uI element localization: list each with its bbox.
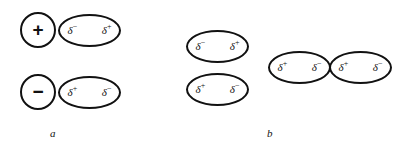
partial-charge-left: δ−	[196, 41, 206, 52]
dipole-pair-lower: δ+δ−	[186, 73, 249, 106]
dipole-inline-right: δ+δ−	[329, 51, 392, 84]
ion-dipole-diagram: +δ−δ+−δ+δ−aδ−δ+δ+δ−δ+δ−δ+δ−b	[0, 0, 398, 148]
partial-charge-right: δ−	[230, 84, 240, 95]
panel-label-b: b	[267, 128, 273, 139]
dipole-inline-left: δ+δ−	[268, 51, 331, 84]
panel-label-a: a	[50, 128, 56, 139]
partial-charge-pair: δ+δ−	[278, 62, 322, 73]
partial-charge-right: δ−	[373, 62, 383, 73]
partial-charge-pair: δ−δ+	[68, 25, 112, 36]
cation-circle: +	[20, 12, 56, 48]
partial-charge-left: δ+	[278, 62, 288, 73]
dipole-pair-upper: δ−δ+	[186, 30, 249, 63]
partial-charge-left: δ+	[68, 87, 78, 98]
dipole-ellipse-top: δ−δ+	[58, 14, 121, 47]
partial-charge-pair: δ−δ+	[196, 41, 240, 52]
partial-charge-right: δ−	[312, 62, 322, 73]
dipole-ellipse-bottom: δ+δ−	[58, 76, 121, 109]
ion-charge-sign: −	[32, 82, 43, 101]
partial-charge-right: δ+	[102, 25, 112, 36]
partial-charge-pair: δ+δ−	[196, 84, 240, 95]
partial-charge-right: δ+	[230, 41, 240, 52]
ion-charge-sign: +	[32, 20, 43, 39]
partial-charge-left: δ+	[339, 62, 349, 73]
partial-charge-left: δ+	[196, 84, 206, 95]
partial-charge-pair: δ+δ−	[68, 87, 112, 98]
partial-charge-pair: δ+δ−	[339, 62, 383, 73]
partial-charge-right: δ−	[102, 87, 112, 98]
anion-circle: −	[20, 74, 56, 110]
partial-charge-left: δ−	[68, 25, 78, 36]
